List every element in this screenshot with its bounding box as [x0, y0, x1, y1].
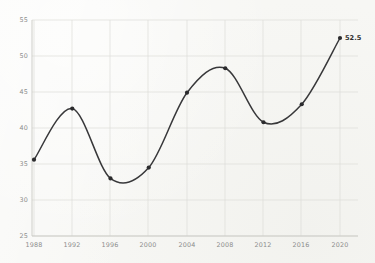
- data-point-marker-1996: [108, 176, 112, 180]
- data-point-marker-2008: [223, 66, 227, 70]
- data-point-marker-2000: [147, 166, 151, 170]
- x-axis-tick-labels: 1988 1992 1996 2000 2004 2008 2012 2016 …: [25, 241, 348, 249]
- x-tick-label-2004: 2004: [178, 241, 195, 249]
- x-tick-label-1996: 1996: [101, 241, 118, 249]
- y-tick-label-35: 35: [19, 160, 28, 168]
- data-point-marker-2004: [185, 91, 189, 95]
- chart-plot-area: 55 50 45 40 35 30 25 1988 1992 1996 2000…: [0, 0, 375, 263]
- data-point-value-label: 52.5: [345, 34, 362, 42]
- data-point-marker-1992: [70, 106, 74, 110]
- y-axis-tick-labels: 55 50 45 40 35 30 25: [19, 16, 28, 240]
- x-tick-label-2008: 2008: [216, 241, 233, 249]
- y-tick-label-55: 55: [19, 16, 28, 24]
- x-tick-label-2016: 2016: [292, 241, 309, 249]
- data-point-marker-2012: [261, 120, 265, 124]
- data-point-marker-2020: [338, 36, 342, 40]
- y-tick-label-45: 45: [19, 88, 28, 96]
- data-point-marker-2016: [300, 102, 304, 106]
- x-tick-label-2020: 2020: [331, 241, 348, 249]
- gridlines-horizontal: [32, 20, 358, 236]
- x-tick-label-1992: 1992: [63, 241, 80, 249]
- y-tick-label-30: 30: [19, 196, 28, 204]
- x-tick-label-2012: 2012: [254, 241, 271, 249]
- x-tick-label-2000: 2000: [139, 241, 156, 249]
- y-tick-label-50: 50: [19, 52, 28, 60]
- x-tick-label-1988: 1988: [25, 241, 42, 249]
- line-chart: 55 50 45 40 35 30 25 1988 1992 1996 2000…: [0, 0, 375, 263]
- y-tick-label-40: 40: [19, 124, 28, 132]
- data-point-marker-1988: [32, 158, 36, 162]
- y-tick-label-25: 25: [19, 232, 28, 240]
